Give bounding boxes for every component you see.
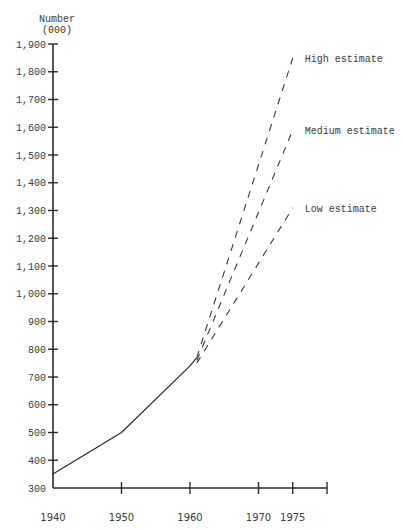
annotation-low-estimate: Low estimate <box>305 204 377 215</box>
series-line-low-estimate <box>197 208 293 363</box>
series-line-medium-estimate <box>197 130 293 360</box>
y-tick-label: 800 <box>28 345 46 356</box>
y-tick-label: 1,700 <box>16 95 46 106</box>
series-line-high-estimate <box>197 58 293 358</box>
y-tick-label: 1,500 <box>16 151 46 162</box>
y-axis-title-line: (000) <box>42 25 72 36</box>
x-tick-label: 1960 <box>177 512 202 523</box>
series-annotations: High estimateMedium estimateLow estimate <box>305 54 395 215</box>
x-tick-label: 1940 <box>40 512 65 523</box>
x-tick-label: 1970 <box>246 512 271 523</box>
y-tick-label: 300 <box>28 484 46 495</box>
y-tick-label: 700 <box>28 373 46 384</box>
y-tick-label: 1,400 <box>16 178 46 189</box>
series-line-actual <box>53 358 197 475</box>
y-tick-label: 500 <box>28 428 46 439</box>
y-tick-label: 1,600 <box>16 123 46 134</box>
y-tick-label: 1,300 <box>16 206 46 217</box>
y-tick-label: 900 <box>28 317 46 328</box>
y-axis-title-line: Number <box>39 14 75 25</box>
y-axis-title: Number(000) <box>39 14 75 36</box>
x-tick-label: 1950 <box>109 512 134 523</box>
y-tick-label: 1,900 <box>16 40 46 51</box>
annotation-medium-estimate: Medium estimate <box>305 126 395 137</box>
axes <box>53 44 327 488</box>
population-projection-chart: Number(000) 3004005006007008009001,0001,… <box>0 0 403 530</box>
y-tick-label: 600 <box>28 400 46 411</box>
x-tick-label: 1975 <box>280 512 305 523</box>
y-tick-label: 1,100 <box>16 262 46 273</box>
y-tick-label: 1,800 <box>16 67 46 78</box>
y-tick-label: 1,200 <box>16 234 46 245</box>
y-axis-ticks: 3004005006007008009001,0001,1001,2001,30… <box>16 40 58 495</box>
y-tick-label: 400 <box>28 456 46 467</box>
y-tick-label: 1,000 <box>16 289 46 300</box>
annotation-high-estimate: High estimate <box>305 54 383 65</box>
data-series <box>53 58 293 474</box>
